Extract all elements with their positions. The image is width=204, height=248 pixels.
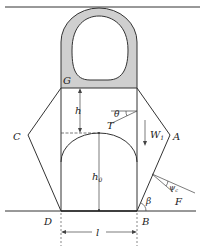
l-arrow-left (61, 230, 66, 234)
label-theta: θ (114, 109, 120, 119)
right-wedge (137, 88, 170, 211)
h0-top-point (98, 132, 100, 134)
label-D: D (43, 216, 52, 227)
psi-arc (166, 181, 168, 186)
label-C: C (13, 131, 21, 142)
label-T: T (107, 120, 115, 131)
tunnel-force-diagram: G C A h h0 θ T W1 ψc F β D B l (0, 0, 204, 248)
h-arrow-down (78, 128, 82, 133)
label-W1: W1 (150, 129, 164, 141)
h-arrow-up (78, 88, 82, 93)
left-wedge (28, 88, 61, 211)
label-F: F (174, 196, 183, 207)
label-h0: h0 (92, 171, 102, 183)
theta-arc (126, 111, 127, 116)
label-G: G (63, 75, 71, 86)
label-psi: ψc (169, 183, 178, 193)
l-arrow-right (132, 230, 137, 234)
label-beta: β (145, 196, 151, 206)
label-B: B (141, 216, 149, 227)
label-l: l (96, 227, 99, 238)
label-h: h (75, 105, 81, 116)
inner-opening (72, 16, 128, 80)
W1-arrow-head (143, 141, 147, 146)
label-A: A (172, 131, 180, 142)
